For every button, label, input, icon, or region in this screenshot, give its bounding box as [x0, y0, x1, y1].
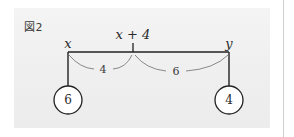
beam-left-label: x [64, 36, 72, 51]
left-distance-label: 4 [100, 63, 107, 76]
lever-diagram: x + 4 x y 4 6 6 [14, 8, 270, 128]
fulcrum-label: x + 4 [116, 27, 151, 42]
left-distance-brace-end [113, 55, 132, 69]
right-distance-brace-end [186, 55, 228, 71]
figure-panel: 図2 x + 4 x y 4 6 [14, 8, 270, 128]
left-weight-label: 6 [64, 93, 72, 107]
right-distance-brace-start [135, 55, 166, 71]
left-distance-brace-start [69, 55, 94, 69]
right-weight-label: 4 [225, 93, 233, 107]
page-margin-rule [283, 0, 284, 137]
figure-screenshot: 図2 x + 4 x y 4 6 [0, 0, 294, 137]
right-distance-label: 6 [173, 65, 180, 78]
beam-right-label: y [224, 36, 233, 51]
